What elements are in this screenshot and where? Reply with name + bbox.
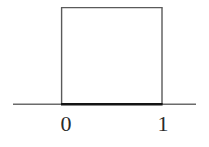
figure-canvas: 0 1 [0,0,209,147]
x-tick-label-0: 0 [51,113,81,135]
x-tick-label-1: 1 [148,113,178,135]
